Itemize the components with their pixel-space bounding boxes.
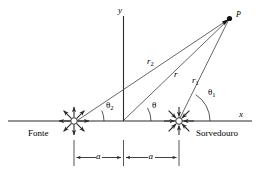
dimension-a-left-label: a [96, 152, 101, 161]
dimension-extension-lines [74, 140, 179, 166]
angle-theta1-label: θ1 [208, 88, 216, 97]
angle-theta-label: θ [152, 101, 156, 110]
angle-theta1-sub: 1 [212, 91, 215, 98]
angle-theta2-label: θ2 [106, 101, 114, 110]
sink-label: Sorvedouro [196, 129, 238, 138]
angle-theta2-sub: 2 [110, 104, 113, 111]
x-axis-label: x [239, 110, 243, 119]
sink-symbol [164, 107, 194, 135]
vector-r1-base: r [192, 75, 196, 85]
y-axis-label: y [118, 6, 122, 15]
vector-r1-label: r1 [192, 76, 199, 85]
vector-r1-sub: 1 [196, 79, 199, 86]
vector-r2-base: r [147, 56, 151, 66]
vector-r2-sub: 2 [151, 60, 154, 67]
source-label: Fonte [28, 129, 49, 138]
diagram-vector-layer [0, 0, 261, 173]
angle-arc-theta2 [102, 111, 104, 121]
diagram-canvas: y x P r2 r r1 θ2 θ θ1 Fonte Sorvedouro a… [0, 0, 261, 173]
angle-arc-theta [148, 108, 152, 121]
angle-arc-theta1 [196, 95, 210, 121]
vector-r1 [179, 19, 229, 120]
source-symbol [59, 107, 89, 135]
vector-r-label: r [174, 70, 178, 79]
vector-r2-label: r2 [147, 57, 154, 66]
point-P-label: P [236, 11, 241, 19]
dimension-a-right-label: a [149, 152, 154, 161]
